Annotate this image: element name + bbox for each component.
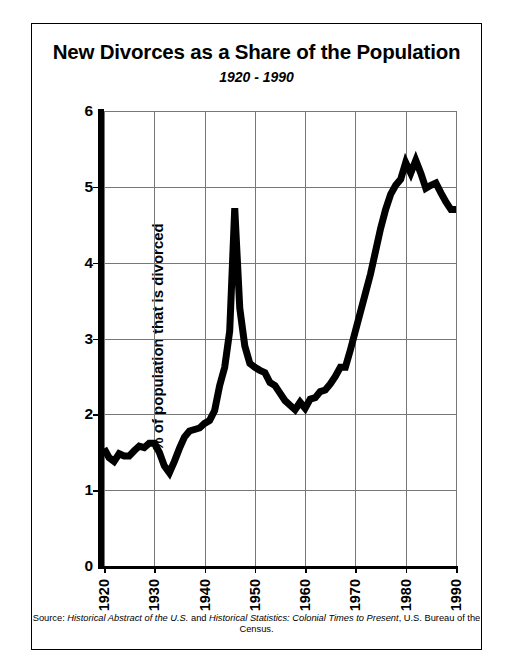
x-tick-mark [406,566,408,573]
x-tick-mark [305,566,307,573]
source-title-2: Historical Statistics: Colonial Times to… [209,613,399,623]
y-tick-label: 0 [84,558,93,574]
x-tick-label: 1940 [197,579,212,611]
x-tick-label: 1950 [248,579,263,611]
source-mid: and [188,613,209,623]
x-tick-label: 1980 [398,579,413,611]
gridline-vertical [456,111,457,566]
chart-figure: New Divorces as a Share of the Populatio… [31,23,482,650]
x-tick-label: 1930 [147,579,162,611]
y-tick-label: 3 [84,331,93,347]
x-tick-label: 1990 [449,579,464,611]
y-tick-label: 1 [84,482,93,498]
chart-subtitle: 1920 - 1990 [32,69,481,85]
source-prefix: Source: [33,613,68,623]
source-title-1: Historical Abstract of the U.S. [67,613,188,623]
x-tick-label: 1960 [298,579,313,611]
x-tick-mark [154,566,156,573]
plot-area: 0123456 19201930194019501960197019801990 [104,111,456,566]
data-series-line [104,111,456,566]
x-axis-spine [98,566,456,569]
x-tick-mark [456,566,458,573]
y-tick-label: 5 [84,179,93,195]
x-tick-label: 1920 [97,579,112,611]
x-tick-mark [355,566,357,573]
y-tick-mark [93,339,101,341]
chart-title: New Divorces as a Share of the Populatio… [32,40,481,64]
x-tick-mark [255,566,257,573]
y-tick-mark [93,187,101,189]
source-note: Source: Historical Abstract of the U.S. … [32,613,481,635]
y-tick-label: 2 [84,407,93,423]
y-tick-label: 6 [84,103,93,119]
x-tick-mark [104,566,106,573]
x-tick-mark [205,566,207,573]
y-tick-label: 4 [84,255,93,271]
y-tick-mark [93,414,101,416]
y-tick-mark [93,490,101,492]
y-tick-mark [93,263,101,265]
x-tick-label: 1970 [348,579,363,611]
